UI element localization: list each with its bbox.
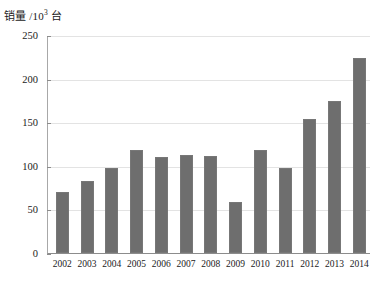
bar-chart: 销量 /103 台 050100150200250 20022003200420… — [0, 0, 376, 303]
y-tick-mark — [47, 36, 51, 37]
y-tick-label: 200 — [0, 75, 38, 85]
y-tick-mark — [47, 80, 51, 81]
y-tick-mark — [47, 254, 51, 255]
y-axis: 050100150200250 — [0, 36, 47, 254]
y-tick-label: 100 — [0, 162, 38, 172]
y-tick-mark — [47, 167, 51, 168]
gridline — [48, 123, 370, 124]
y-tick-label: 250 — [0, 31, 38, 41]
gridline — [48, 36, 370, 37]
y-tick-label: 0 — [0, 249, 38, 259]
y-tick-mark — [47, 123, 51, 124]
y-axis-title: 销量 /103 台 — [4, 9, 62, 23]
gridline — [48, 80, 370, 81]
y-axis-title-unit: 台 — [48, 10, 62, 22]
x-tick-label: 2014 — [342, 258, 376, 270]
y-tick-label: 50 — [0, 205, 38, 215]
gridline — [48, 210, 370, 211]
y-tick-label: 150 — [0, 118, 38, 128]
gridline — [48, 167, 370, 168]
plot-area — [47, 36, 370, 254]
x-axis: 2002200320042005200620072008200920102011… — [47, 258, 370, 276]
y-axis-title-text: 销量 /10 — [4, 10, 44, 22]
y-tick-mark — [47, 210, 51, 211]
